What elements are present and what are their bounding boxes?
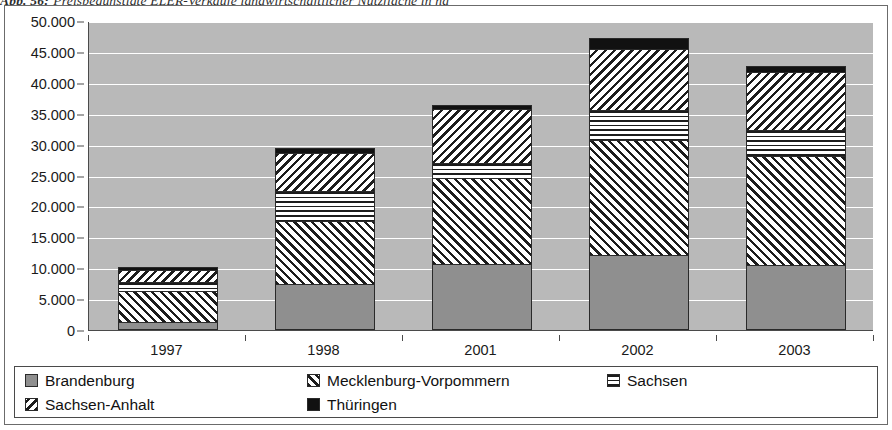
bar-segment-sachsen-anhalt[interactable] xyxy=(275,153,375,191)
y-axis-label: 45.000 xyxy=(31,45,75,61)
legend-item-sachsen[interactable]: Sachsen xyxy=(607,373,687,389)
x-axis-label-2002: 2002 xyxy=(621,342,653,358)
x-axis-label-1997: 1997 xyxy=(150,342,182,358)
bar-group-1997[interactable] xyxy=(118,22,218,330)
chart-legend: BrandenburgMecklenburg-VorpommernSachsen… xyxy=(14,366,878,418)
x-axis-label-2001: 2001 xyxy=(464,342,496,358)
bar-segment-brandenburg[interactable] xyxy=(118,322,218,330)
y-axis-label: 30.000 xyxy=(31,138,75,154)
plot-area xyxy=(88,22,873,331)
bar-segment-sachsen[interactable] xyxy=(275,191,375,221)
bar-group-2002[interactable] xyxy=(589,22,689,330)
legend-swatch-icon xyxy=(307,374,320,387)
y-axis-tick xyxy=(77,22,84,23)
y-axis-tick xyxy=(77,300,84,301)
x-axis: 19971998200120022003 xyxy=(88,335,873,359)
legend-row-top: BrandenburgMecklenburg-VorpommernSachsen xyxy=(15,368,877,393)
y-axis-label: 5.000 xyxy=(39,292,75,308)
y-axis-tick xyxy=(77,83,84,84)
x-axis-tick xyxy=(245,335,246,341)
legend-label: Sachsen xyxy=(627,373,687,389)
legend-item-brandenburg[interactable]: Brandenburg xyxy=(25,373,135,389)
y-axis-label: 40.000 xyxy=(31,76,75,92)
y-axis-label: 50.000 xyxy=(31,14,75,30)
bar-segment-sachsen[interactable] xyxy=(746,130,846,156)
y-axis-tick xyxy=(77,145,84,146)
x-axis-tick xyxy=(716,335,717,341)
bar-segment-sachsen-anhalt[interactable] xyxy=(118,270,218,282)
bar-segment-brandenburg[interactable] xyxy=(432,264,532,330)
legend-row-bottom: Sachsen-AnhaltThüringen xyxy=(15,392,877,417)
y-axis-label: 10.000 xyxy=(31,261,75,277)
bar-segment-mecklenburg-vorpommern[interactable] xyxy=(746,156,846,265)
y-axis-tick xyxy=(77,238,84,239)
y-axis: 05.00010.00015.00020.00025.00030.00035.0… xyxy=(5,6,88,336)
legend-item-th-ringen[interactable]: Thüringen xyxy=(307,397,397,413)
y-axis-label: 35.000 xyxy=(31,107,75,123)
bar-segment-sachsen[interactable] xyxy=(118,282,218,291)
bar-segment-th-ringen[interactable] xyxy=(118,267,218,270)
bar-segment-th-ringen[interactable] xyxy=(432,105,532,109)
bar-segment-brandenburg[interactable] xyxy=(746,265,846,330)
bar-segment-mecklenburg-vorpommern[interactable] xyxy=(118,291,218,322)
x-axis-label-1998: 1998 xyxy=(307,342,339,358)
bar-segment-sachsen-anhalt[interactable] xyxy=(432,109,532,163)
bar-segment-th-ringen[interactable] xyxy=(746,66,846,72)
x-axis-tick xyxy=(559,335,560,341)
legend-swatch-icon xyxy=(25,374,38,387)
legend-label: Sachsen-Anhalt xyxy=(45,397,154,413)
y-axis-tick xyxy=(77,207,84,208)
legend-swatch-icon xyxy=(25,398,38,411)
bar-group-2003[interactable] xyxy=(746,22,846,330)
bar-group-1998[interactable] xyxy=(275,22,375,330)
y-axis-label: 0 xyxy=(67,323,75,339)
legend-swatch-icon xyxy=(307,398,320,411)
y-axis-tick xyxy=(77,176,84,177)
bar-segment-mecklenburg-vorpommern[interactable] xyxy=(589,140,689,255)
x-axis-tick xyxy=(88,335,89,341)
legend-label: Mecklenburg-Vorpommern xyxy=(327,373,510,389)
y-axis-tick xyxy=(77,331,84,332)
y-axis-label: 20.000 xyxy=(31,199,75,215)
bar-segment-brandenburg[interactable] xyxy=(589,255,689,330)
legend-item-mecklenburg-vorpommern[interactable]: Mecklenburg-Vorpommern xyxy=(307,373,510,389)
bar-segment-mecklenburg-vorpommern[interactable] xyxy=(275,221,375,284)
bar-segment-sachsen-anhalt[interactable] xyxy=(746,72,846,129)
bar-segment-brandenburg[interactable] xyxy=(275,284,375,330)
bar-group-2001[interactable] xyxy=(432,22,532,330)
legend-item-sachsen-anhalt[interactable]: Sachsen-Anhalt xyxy=(25,397,154,413)
legend-swatch-icon xyxy=(607,374,620,387)
y-axis-tick xyxy=(77,269,84,270)
y-axis-label: 25.000 xyxy=(31,169,75,185)
x-axis-tick xyxy=(402,335,403,341)
bar-segment-sachsen-anhalt[interactable] xyxy=(589,49,689,110)
bar-segment-sachsen[interactable] xyxy=(432,163,532,178)
x-axis-label-2003: 2003 xyxy=(778,342,810,358)
legend-label: Brandenburg xyxy=(45,373,135,389)
chart-frame: 05.00010.00015.00020.00025.00030.00035.0… xyxy=(4,5,888,425)
y-axis-label: 15.000 xyxy=(31,230,75,246)
chart-page: Abb. 56: Preisbegünstigte ELER-Verkäufe … xyxy=(0,0,892,430)
bar-segment-th-ringen[interactable] xyxy=(589,38,689,49)
bar-segment-sachsen[interactable] xyxy=(589,110,689,140)
x-axis-tick xyxy=(873,335,874,341)
bar-segment-th-ringen[interactable] xyxy=(275,148,375,154)
plot-wrapper: 05.00010.00015.00020.00025.00030.00035.0… xyxy=(5,6,889,358)
bar-segment-mecklenburg-vorpommern[interactable] xyxy=(432,178,532,264)
legend-label: Thüringen xyxy=(327,397,397,413)
y-axis-tick xyxy=(77,114,84,115)
y-axis-tick xyxy=(77,52,84,53)
